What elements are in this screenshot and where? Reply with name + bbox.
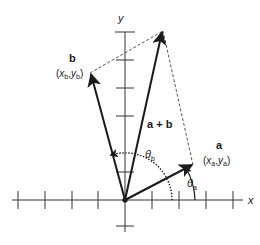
parallelogram-dashed-lines — [90, 31, 193, 165]
vector-b-label: b — [69, 52, 76, 64]
theta-b-arc — [111, 153, 172, 200]
theta-b-label: θb — [145, 148, 155, 162]
vector-b-arrow — [91, 74, 125, 200]
theta-a-label: θa — [187, 177, 197, 191]
vector-a-coords: (xa,ya) — [203, 155, 230, 167]
diagram-canvas: y x b (xb,yb) a + b a (xa,ya) θb θa — [0, 0, 260, 245]
y-axis-label: y — [117, 12, 125, 24]
dashed-a-to-sum — [163, 31, 193, 165]
origin-point — [122, 197, 127, 202]
vector-sum-label: a + b — [147, 118, 173, 130]
vector-b-coords: (xb,yb) — [56, 68, 83, 80]
vectors — [91, 32, 192, 200]
vector-a-label: a — [216, 139, 223, 151]
dashed-b-to-sum — [90, 31, 163, 73]
vector-a-arrow — [125, 165, 192, 200]
angle-arcs — [111, 153, 172, 200]
x-axis-label: x — [247, 194, 254, 206]
vector-diagram: y x b (xb,yb) a + b a (xa,ya) θb θa — [0, 0, 260, 245]
